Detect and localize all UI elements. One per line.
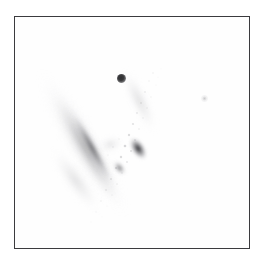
- sky-background: [15, 17, 249, 248]
- image-frame: [14, 16, 250, 249]
- astronomical-image-plate: [0, 0, 265, 269]
